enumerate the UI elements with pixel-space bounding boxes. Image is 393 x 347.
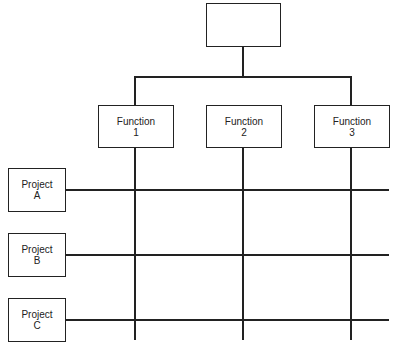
function-bus-line: [134, 76, 352, 78]
function-1-drop-line: [134, 76, 136, 106]
project-label: Project: [21, 179, 52, 190]
project-label: Project: [21, 309, 52, 320]
function-box-3: Function 3: [314, 105, 390, 148]
function-3-column-line: [350, 147, 352, 340]
function-3-drop-line: [350, 76, 352, 106]
function-label: Function: [333, 116, 371, 127]
project-label: Project: [21, 244, 52, 255]
project-letter: A: [34, 190, 41, 201]
project-a-row-line: [65, 189, 389, 191]
top-management-box: [206, 3, 281, 47]
function-number: 2: [241, 127, 247, 138]
function-number: 3: [349, 127, 355, 138]
project-b-row-line: [65, 254, 389, 256]
function-box-1: Function 1: [98, 105, 174, 148]
top-connector-line: [242, 46, 244, 77]
function-2-column-line: [242, 147, 244, 340]
function-label: Function: [117, 116, 155, 127]
project-letter: B: [34, 255, 41, 266]
project-letter: C: [33, 320, 40, 331]
project-c-row-line: [65, 319, 389, 321]
project-box-b: Project B: [8, 233, 66, 277]
function-number: 1: [133, 127, 139, 138]
project-box-a: Project A: [8, 168, 66, 212]
function-label: Function: [225, 116, 263, 127]
project-box-c: Project C: [8, 298, 66, 342]
function-box-2: Function 2: [206, 105, 282, 148]
function-1-column-line: [134, 147, 136, 340]
